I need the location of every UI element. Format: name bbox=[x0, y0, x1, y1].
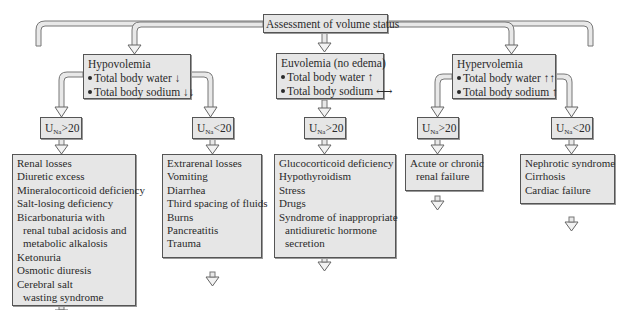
hypovolemia-water: Total body water ↓ bbox=[94, 72, 180, 84]
test-euvo-una-gt20: UNa>20 bbox=[304, 117, 346, 139]
test-hyper-una-lt20: UNa<20 bbox=[551, 117, 593, 139]
causes-renal-losses: Renal losses Diuretic excess Mineralocor… bbox=[12, 154, 136, 306]
cause-item: Cardiac failure bbox=[525, 184, 610, 197]
bullet-icon bbox=[88, 76, 92, 80]
cause-item: renal failure bbox=[410, 170, 478, 183]
bullet-icon bbox=[281, 75, 285, 79]
cause-item: Diarrhea bbox=[167, 184, 257, 197]
cause-item: Stress bbox=[279, 184, 391, 197]
cause-item: wasting syndrome bbox=[17, 291, 131, 304]
cause-item: secretion bbox=[279, 237, 391, 250]
hypovolemia-box: Hypovolemia Total body water ↓ Total bod… bbox=[83, 54, 191, 99]
hypervolemia-box: Hypervolemia Total body water ↑↑ Total b… bbox=[452, 54, 556, 99]
cause-item: Third spacing of fluids bbox=[167, 197, 257, 210]
causes-renal-failure: Acute or chronic renal failure bbox=[405, 154, 483, 191]
test-operator: <20 bbox=[572, 122, 590, 134]
cause-item: Extrarenal losses bbox=[167, 157, 257, 170]
cause-item: Hypothyroidism bbox=[279, 170, 391, 183]
cause-item: Nephrotic syndrome bbox=[525, 157, 610, 170]
bullet-icon bbox=[457, 76, 461, 80]
test-hypo-una-gt20: UNa>20 bbox=[40, 117, 82, 139]
cause-item: Vomiting bbox=[167, 170, 257, 183]
root-title: Assessment of volume status bbox=[266, 17, 385, 31]
causes-edematous-states: Nephrotic syndrome Cirrhosis Cardiac fai… bbox=[520, 154, 615, 204]
cause-item: Acute or chronic bbox=[410, 157, 478, 170]
cause-item: Syndrome of inappropriate bbox=[279, 211, 391, 224]
cause-item: Burns bbox=[167, 211, 257, 224]
test-operator: >20 bbox=[438, 122, 456, 134]
bullet-icon bbox=[457, 90, 461, 94]
euvolemia-heading: Euvolemia (no edema) bbox=[281, 56, 379, 70]
causes-euvolemia: Glucocorticoid deficiency Hypothyroidism… bbox=[274, 154, 396, 258]
causes-extrarenal-losses: Extrarenal losses Vomiting Diarrhea Thir… bbox=[162, 154, 262, 258]
cause-item: renal tubal acidosis and bbox=[17, 224, 131, 237]
bullet-icon bbox=[281, 89, 285, 93]
test-operator: >20 bbox=[61, 122, 79, 134]
hypervolemia-sodium: Total body sodium ↑ bbox=[463, 86, 558, 98]
test-hypo-una-lt20: UNa<20 bbox=[192, 117, 234, 139]
hypovolemia-sodium: Total body sodium ↓↓ bbox=[94, 86, 194, 98]
cause-item: Drugs bbox=[279, 197, 391, 210]
cause-item: Bicarbonaturia with bbox=[17, 211, 131, 224]
cause-item: Trauma bbox=[167, 237, 257, 250]
hypervolemia-heading: Hypervolemia bbox=[457, 57, 551, 71]
hypovolemia-heading: Hypovolemia bbox=[88, 57, 186, 71]
hypervolemia-water: Total body water ↑↑ bbox=[463, 72, 555, 84]
cause-item: metabolic alkalosis bbox=[17, 237, 131, 250]
test-operator: >20 bbox=[325, 122, 343, 134]
euvolemia-water: Total body water ↑ bbox=[287, 71, 373, 83]
euvolemia-sodium: Total body sodium ⟷ bbox=[287, 85, 392, 97]
cause-item: Mineralocorticoid deficiency bbox=[17, 184, 131, 197]
cause-item: Pancreatitis bbox=[167, 224, 257, 237]
cause-item: Ketonuria bbox=[17, 251, 131, 264]
root-assessment-box: Assessment of volume status bbox=[263, 14, 388, 33]
euvolemia-box: Euvolemia (no edema) Total body water ↑ … bbox=[276, 53, 384, 99]
cause-item: Diuretic excess bbox=[17, 170, 131, 183]
test-hyper-una-gt20: UNa>20 bbox=[417, 117, 459, 139]
cause-item: Renal losses bbox=[17, 157, 131, 170]
test-operator: <20 bbox=[213, 122, 231, 134]
cause-item: antidiuretic hormone bbox=[279, 224, 391, 237]
cause-item: Cerebral salt bbox=[17, 278, 131, 291]
bullet-icon bbox=[88, 90, 92, 94]
cause-item: Glucocorticoid deficiency bbox=[279, 157, 391, 170]
cause-item: Cirrhosis bbox=[525, 170, 610, 183]
cause-item: Salt-losing deficiency bbox=[17, 197, 131, 210]
cause-item: Osmotic diuresis bbox=[17, 264, 131, 277]
